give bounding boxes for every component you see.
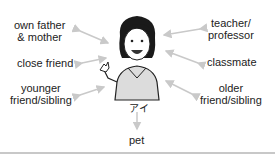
label-classmate: classmate [207, 56, 257, 68]
label-younger-line2: friend/sibling [10, 94, 72, 106]
label-teacher-professor: teacher/ professor [208, 17, 254, 41]
label-younger-friend-sibling: younger friend/sibling [10, 82, 72, 106]
label-older-line2: friend/sibling [200, 94, 262, 106]
label-pet: pet [129, 134, 144, 146]
label-own-parents: own father & mother [14, 19, 65, 43]
label-teacher-line1: teacher/ [208, 17, 254, 29]
label-younger-line1: younger [10, 82, 72, 94]
label-older-line1: older [200, 82, 262, 94]
woman-waving-icon [100, 16, 159, 100]
center-person-name: アイ [129, 100, 149, 115]
bottom-divider [0, 152, 275, 154]
label-close-friend: close friend [17, 57, 73, 69]
label-older-friend-sibling: older friend/sibling [200, 82, 262, 106]
label-own-parents-line1: own father [14, 19, 65, 31]
label-own-parents-line2: & mother [14, 31, 65, 43]
label-teacher-line2: professor [208, 29, 254, 41]
